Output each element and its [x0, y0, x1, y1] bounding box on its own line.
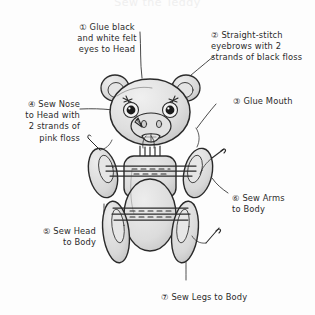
right-arm [179, 146, 217, 201]
needle-mouth [196, 128, 199, 147]
step-label-6: ⑥ Sew Arms to Body [232, 193, 312, 215]
craft-instruction-diagram: Sew the Teddy [0, 0, 315, 315]
leader-line-3 [197, 104, 216, 128]
left-eye [124, 103, 139, 118]
right-eye [163, 103, 178, 118]
step-label-5: ⑤ Sew Head to Body [12, 226, 96, 248]
step-label-2: ② Straight-stitch eyebrows with 2 strand… [211, 30, 315, 64]
step-label-4: ④ Sew Nose to Head with 2 strands of pin… [2, 99, 80, 144]
leader-line-6 [212, 178, 228, 193]
step-label-1: ① Glue black and white felt eyes to Head [62, 22, 152, 56]
left-arm [84, 146, 122, 201]
step-label-7: ⑦ Sew Legs to Body [161, 292, 311, 303]
torso [124, 156, 176, 251]
step-label-3: ③ Glue Mouth [233, 96, 315, 107]
